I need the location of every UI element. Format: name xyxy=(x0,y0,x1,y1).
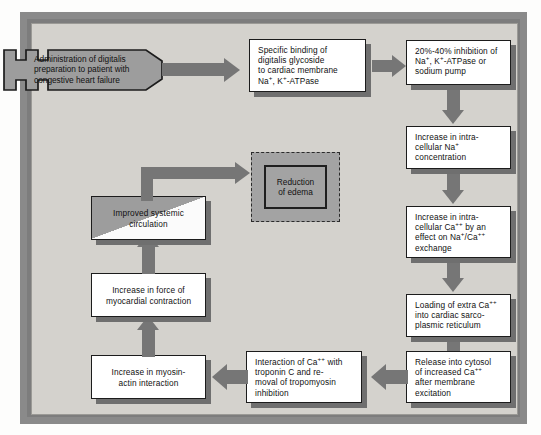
node-label: Improved systemic circulation xyxy=(113,208,184,228)
diagram-canvas: Administration of digitalis preparation … xyxy=(0,0,541,435)
node-body: Improved systemic circulation xyxy=(91,196,206,240)
node-troponin-interaction: Interaction of Ca++ with troponin C and … xyxy=(246,351,362,403)
node-label: Increase in intra- cellular Na+ concentr… xyxy=(415,132,504,163)
node-label: Specific binding of digitalis glycoside … xyxy=(258,45,359,86)
node-body: Increase in myosin- actin interaction xyxy=(91,355,206,399)
node-sarcoplasmic-loading: Loading of extra Ca++ into cardiac sarco… xyxy=(406,294,511,337)
node-body: 20%-40% inhibition of Na+, K+-ATPase or … xyxy=(406,40,511,85)
node-label: Reduction of edema xyxy=(277,177,314,198)
node-intracellular-calcium: Increase in intra- cellular Ca++ by an e… xyxy=(406,206,511,258)
node-body: Release into cytosol of increased Ca++ a… xyxy=(406,351,511,403)
node-label: Increase in intra- cellular Ca++ by an e… xyxy=(415,212,504,253)
node-body: Interaction of Ca++ with troponin C and … xyxy=(246,351,362,403)
node-body: Specific binding of digitalis glycoside … xyxy=(249,39,366,92)
node-specific-binding: Specific binding of digitalis glycoside … xyxy=(249,39,366,92)
node-label: Loading of extra Ca++ into cardiac sarco… xyxy=(415,300,504,331)
node-label: Interaction of Ca++ with troponin C and … xyxy=(255,357,355,398)
node-body: Loading of extra Ca++ into cardiac sarco… xyxy=(406,294,511,337)
node-myocardial-force: Increase in force of myocardial contract… xyxy=(91,273,206,317)
node-label: 20%-40% inhibition of Na+, K+-ATPase or … xyxy=(415,46,504,77)
node-body: Increase in force of myocardial contract… xyxy=(91,273,206,317)
node-body: Reduction of edema xyxy=(264,165,327,209)
node-cytosol-release: Release into cytosol of increased Ca++ a… xyxy=(406,351,511,403)
node-administration-label: Administration of digitalis preparation … xyxy=(34,54,154,85)
node-body: Increase in intra- cellular Na+ concentr… xyxy=(406,126,511,169)
node-label: Increase in myosin- actin interaction xyxy=(112,367,186,387)
node-myosin-actin: Increase in myosin- actin interaction xyxy=(91,355,206,399)
node-label: Release into cytosol of increased Ca++ a… xyxy=(415,357,504,398)
node-body: Increase in intra- cellular Ca++ by an e… xyxy=(406,206,511,258)
node-intracellular-sodium: Increase in intra- cellular Na+ concentr… xyxy=(406,126,511,169)
node-inhibition: 20%-40% inhibition of Na+, K+-ATPase or … xyxy=(406,40,511,85)
node-reduction-of-edema: Reduction of edema xyxy=(251,152,340,222)
node-systemic-circulation: Improved systemic circulation xyxy=(91,196,206,240)
node-label: Increase in force of myocardial contract… xyxy=(106,285,191,305)
